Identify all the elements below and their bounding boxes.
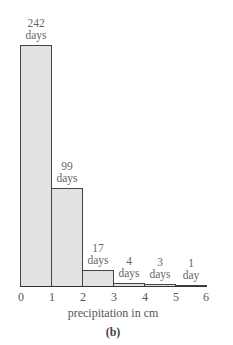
x-tick-4: 4 <box>139 290 151 305</box>
bar-label-0-1: 242 days <box>16 17 56 41</box>
bar-label-unit: day <box>171 269 211 281</box>
x-tick-6: 6 <box>200 290 212 305</box>
x-tick-5: 5 <box>170 290 182 305</box>
bar-label-value: 1 <box>171 257 211 269</box>
bar-label-value: 99 <box>47 160 87 172</box>
bar-label-unit: days <box>47 172 87 184</box>
x-axis-label: precipitation in cm <box>0 306 226 321</box>
bar-label-value: 242 <box>16 17 56 29</box>
precipitation-histogram: 242 days 99 days 17 days 4 days 3 days 1… <box>0 0 233 345</box>
figure-subcaption: (b) <box>0 325 226 340</box>
bar-label-5-6: 1 day <box>171 257 211 281</box>
x-tick-2: 2 <box>77 290 89 305</box>
bar-1-2 <box>51 188 83 287</box>
x-axis <box>20 286 207 287</box>
x-tick-1: 1 <box>46 290 58 305</box>
bar-label-unit: days <box>16 29 56 41</box>
bar-label-1-2: 99 days <box>47 160 87 184</box>
x-tick-3: 3 <box>108 290 120 305</box>
bar-label-value: 17 <box>78 242 118 254</box>
x-tick-0: 0 <box>15 290 27 305</box>
